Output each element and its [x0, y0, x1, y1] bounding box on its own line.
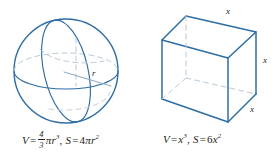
cube-edge-bottom-left: [162, 99, 228, 122]
sphere-drawing: [0, 0, 140, 132]
sphere-surface-equals: =: [71, 134, 79, 146]
cube-hidden-edge-bottom-back-right: [186, 78, 256, 94]
sphere-hidden-arc-lower: [49, 92, 110, 110]
sphere-frac-numerator: 4: [38, 130, 44, 139]
sphere-surface-exponent: 2: [96, 133, 100, 140]
sphere-formula-separator: ,: [60, 134, 63, 146]
sphere-frac-denominator: 3: [38, 141, 44, 150]
cube-drawing: [140, 0, 279, 132]
sphere-outline: [14, 19, 118, 123]
cube-edge-label-front: x: [250, 104, 254, 114]
sphere-volume-equals: =: [29, 134, 37, 146]
cube-edge-label-right: x: [263, 55, 267, 65]
cube-formula: V=x3, S=6x2: [163, 133, 221, 145]
sphere-volume-var: V: [22, 134, 29, 146]
cube-surface-equals: =: [199, 133, 207, 145]
sphere-fraction: 43: [38, 130, 44, 149]
sphere-radius-line: [64, 72, 111, 86]
cube-hidden-edge-bottom-back-left: [162, 78, 186, 99]
sphere-meridian: [33, 15, 99, 126]
cube-surface-exponent: 2: [218, 132, 222, 139]
cube-volume-var: V: [163, 133, 170, 145]
sphere-equator-back-hidden: [14, 53, 118, 71]
sphere-equator-front: [14, 71, 118, 89]
geometry-figure-panel: r V=43πr3, S=4πr2 x x x: [0, 0, 279, 159]
cube-top-face: [162, 16, 256, 58]
cube-edge-label-top: x: [226, 6, 230, 16]
cube-surface-var: S: [193, 133, 199, 145]
sphere-radius-label: r: [92, 68, 96, 78]
sphere-formula: V=43πr3, S=4πr2: [22, 130, 99, 149]
cube-formula-separator: ,: [187, 133, 190, 145]
